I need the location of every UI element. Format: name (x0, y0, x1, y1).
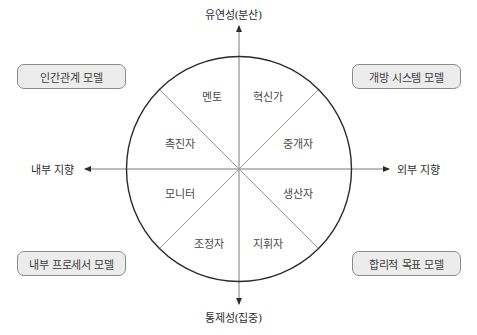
role-monitor: 모니터 (165, 185, 194, 201)
role-director: 지휘자 (253, 235, 282, 251)
model-label: 합리적 목표 모델 (369, 256, 444, 272)
internal-process-model-box: 내부 프로세서 모델 (17, 251, 126, 276)
axis-label-bottom: 통제성(집중) (205, 309, 262, 325)
model-label: 내부 프로세서 모델 (29, 256, 114, 272)
axis-label-left: 내부 지향 (31, 161, 74, 177)
axis-label-right: 외부 지향 (397, 161, 440, 177)
model-label: 개방 시스템 모델 (369, 69, 444, 85)
role-mentor: 멘토 (202, 88, 222, 104)
open-systems-model-box: 개방 시스템 모델 (352, 64, 461, 89)
axis-label-top: 유연성(분산) (205, 6, 262, 22)
role-broker: 중개자 (283, 135, 312, 151)
rational-goal-model-box: 합리적 목표 모델 (352, 251, 461, 276)
role-producer: 생산자 (283, 185, 312, 201)
role-facilitator: 촉진자 (165, 135, 194, 151)
competing-values-framework-diagram: 유연성(분산) 통제성(집중) 내부 지향 외부 지향 인간관계 모델 개방 시… (0, 0, 477, 335)
model-label: 인간관계 모델 (40, 69, 102, 85)
role-innovator: 혁신가 (253, 88, 282, 104)
role-coordinator: 조정자 (194, 235, 223, 251)
human-relations-model-box: 인간관계 모델 (17, 64, 126, 89)
